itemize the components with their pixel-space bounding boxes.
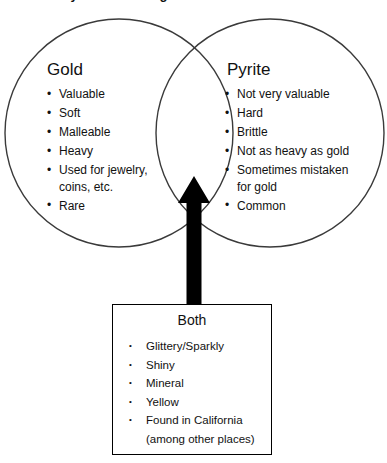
list-item: Mineral (127, 374, 272, 393)
intersection-list: Glittery/Sparkly Shiny Mineral Yellow Fo… (127, 337, 272, 448)
intersection-box-both: Both Glittery/Sparkly Shiny Mineral Yell… (112, 304, 272, 455)
venn-diagram-canvas: Gold and Pyrite Venn Diagram Gold Valuab… (0, 0, 387, 463)
arrow-shape (178, 176, 210, 306)
list-item-text-continuation: (among other places) (146, 430, 272, 449)
list-item-text: Glittery/Sparkly (146, 340, 224, 352)
list-item-text: Shiny (146, 359, 175, 371)
list-item: Glittery/Sparkly (127, 337, 272, 356)
list-item-text: Yellow (146, 396, 179, 408)
intersection-title: Both (113, 312, 271, 328)
list-item-text: Mineral (146, 377, 184, 389)
list-item: Yellow (127, 393, 272, 412)
list-item: Shiny (127, 356, 272, 375)
list-item-text: Found in California (146, 414, 243, 426)
list-item: Found in California (among other places) (127, 411, 272, 448)
